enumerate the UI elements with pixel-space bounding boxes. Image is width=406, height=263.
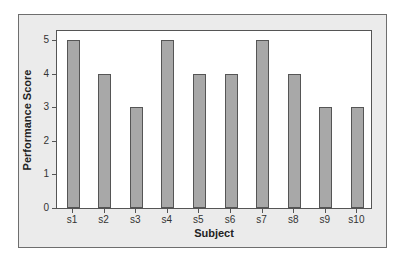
y-tick [52, 141, 56, 142]
y-tick [52, 208, 56, 209]
x-tick-label: s3 [123, 214, 147, 225]
x-tick-label: s7 [250, 214, 274, 225]
x-tick [104, 209, 105, 213]
x-tick-label: s6 [218, 214, 242, 225]
y-tick [52, 74, 56, 75]
bar-s5 [193, 74, 206, 208]
bar-s2 [98, 74, 111, 208]
x-tick-label: s4 [155, 214, 179, 225]
y-tick [52, 174, 56, 175]
bar-s9 [319, 107, 332, 208]
x-axis-title: Subject [184, 227, 244, 239]
y-tick-label: 5 [39, 34, 49, 45]
x-tick [325, 209, 326, 213]
x-tick-label: s9 [313, 214, 337, 225]
y-tick-label: 0 [39, 202, 49, 213]
bar-s6 [225, 74, 238, 208]
x-tick-label: s1 [60, 214, 84, 225]
x-tick-label: s5 [186, 214, 210, 225]
x-tick [198, 209, 199, 213]
x-tick [293, 209, 294, 213]
y-tick-label: 2 [39, 135, 49, 146]
y-tick-label: 3 [39, 101, 49, 112]
bar-s8 [288, 74, 301, 208]
y-tick-label: 4 [39, 68, 49, 79]
y-tick [52, 107, 56, 108]
plot-area [56, 30, 372, 209]
y-axis-title: Performance Score [21, 70, 33, 171]
bar-s3 [130, 107, 143, 208]
y-tick [52, 40, 56, 41]
x-tick [230, 209, 231, 213]
bar-s1 [67, 40, 80, 208]
bar-s7 [256, 40, 269, 208]
x-tick [356, 209, 357, 213]
y-tick-label: 1 [39, 168, 49, 179]
bar-s4 [161, 40, 174, 208]
x-tick [72, 209, 73, 213]
x-tick-label: s2 [92, 214, 116, 225]
bar-s10 [351, 107, 364, 208]
x-tick [135, 209, 136, 213]
x-tick [262, 209, 263, 213]
x-tick [167, 209, 168, 213]
x-tick-label: s10 [344, 214, 368, 225]
x-tick-label: s8 [281, 214, 305, 225]
